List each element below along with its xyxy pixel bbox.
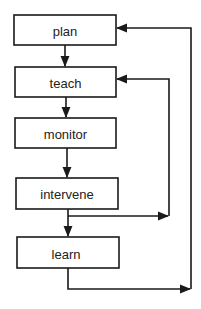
arrow-loop-to-plan	[117, 28, 191, 289]
teach-label: teach	[15, 76, 116, 91]
learn-label: learn	[15, 247, 117, 262]
intervene-label: intervene	[16, 187, 118, 202]
plan-label: plan	[14, 24, 116, 39]
monitor-label: monitor	[15, 127, 116, 142]
arrow-loop-to-teach	[117, 79, 169, 216]
flowchart-canvas	[0, 0, 201, 309]
arrow-learn-loop-right	[68, 268, 190, 289]
